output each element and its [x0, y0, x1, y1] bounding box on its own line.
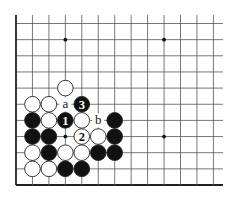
move-number: 1 [62, 114, 68, 128]
go-board: ab 312 [0, 0, 236, 200]
black-stone [107, 145, 123, 161]
black-stone-move-1: 1 [58, 113, 74, 129]
white-stone [25, 161, 41, 177]
white-stone [74, 145, 90, 161]
black-stone [41, 129, 57, 145]
stone-disc [107, 129, 123, 145]
stone-disc [41, 161, 57, 177]
stone-disc [41, 145, 57, 161]
white-stone-move-2: 2 [74, 129, 90, 145]
stone-disc [25, 129, 41, 145]
stone-disc [74, 161, 90, 177]
stone-disc [41, 113, 57, 129]
go-board-diagram: ab 312 [0, 0, 236, 200]
white-stone [58, 80, 74, 96]
stone-disc [90, 129, 106, 145]
black-stone [107, 129, 123, 145]
point-label-b: b [95, 112, 102, 127]
stone-disc [25, 145, 41, 161]
black-stone [41, 145, 57, 161]
stone-disc [74, 145, 90, 161]
white-stone [41, 113, 57, 129]
black-stone [25, 129, 41, 145]
black-stone-move-3: 3 [74, 96, 90, 112]
star-point [63, 38, 67, 42]
stone-disc [58, 145, 74, 161]
stone-disc [74, 113, 90, 129]
white-stone [25, 96, 41, 112]
stone-disc [25, 161, 41, 177]
black-stone [107, 113, 123, 129]
white-stone [58, 145, 74, 161]
black-stone [58, 161, 74, 177]
stone-disc [90, 145, 106, 161]
white-stone [25, 145, 41, 161]
stone-disc [107, 113, 123, 129]
white-stone [41, 161, 57, 177]
point-label-a: a [62, 96, 68, 111]
stone-disc [41, 96, 57, 112]
star-point [162, 38, 166, 42]
stone-disc [41, 129, 57, 145]
star-point [63, 135, 67, 139]
stone-disc [25, 96, 41, 112]
move-number: 2 [79, 130, 85, 144]
black-stone [90, 145, 106, 161]
stones: 312 [25, 80, 123, 176]
white-stone [74, 113, 90, 129]
stone-disc [58, 161, 74, 177]
white-stone [90, 129, 106, 145]
star-point [162, 135, 166, 139]
white-stone [41, 96, 57, 112]
move-number: 3 [79, 98, 85, 112]
stone-disc [25, 113, 41, 129]
black-stone [25, 113, 41, 129]
black-stone [74, 161, 90, 177]
stone-disc [107, 145, 123, 161]
stone-disc [58, 80, 74, 96]
